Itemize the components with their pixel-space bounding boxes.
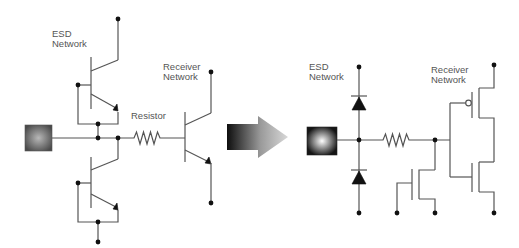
receiver-transistor [185, 72, 211, 203]
diode-icon [352, 97, 366, 110]
emitter-arrow-icon [113, 104, 118, 111]
right-circuit [307, 63, 496, 216]
upper-diode [351, 96, 367, 110]
nmos-clamp [397, 140, 435, 213]
junction-dots [357, 63, 497, 216]
lower-esd-transistor [78, 138, 118, 242]
series-resistor [130, 132, 185, 144]
esd-network-label-right: ESD Network [309, 62, 344, 82]
bond-pad-right [307, 127, 337, 155]
receiver-network-label-right: Receiver Network [431, 65, 469, 85]
transform-arrow-icon [227, 116, 288, 158]
esd-network-label-left: ESD Network [52, 29, 87, 49]
lower-diode [351, 170, 367, 184]
junction-dots [76, 17, 214, 245]
series-resistor [380, 134, 450, 146]
left-circuit [25, 17, 213, 245]
receiver-network-label-left: Receiver Network [163, 62, 201, 82]
cmos-inverter [450, 65, 494, 213]
pmos-bubble-icon [466, 100, 472, 106]
resistor-label: Resistor [131, 111, 166, 121]
diode-icon [352, 171, 366, 184]
bond-pad-left [25, 125, 52, 151]
